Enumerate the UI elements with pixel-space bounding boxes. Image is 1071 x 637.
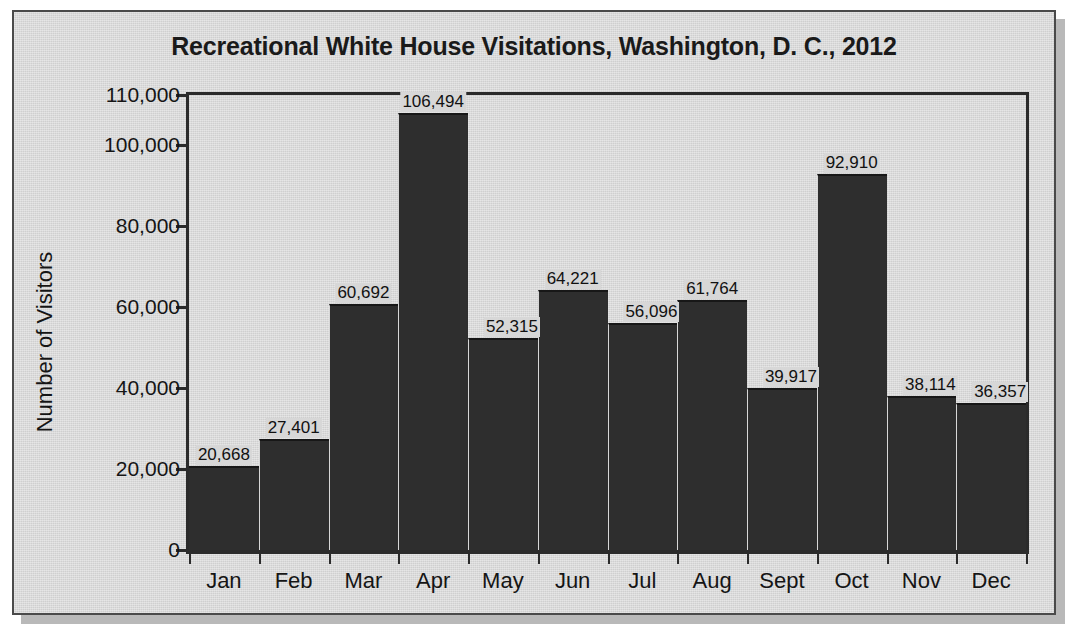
- bar-jul[interactable]: [608, 323, 678, 550]
- x-axis-tick: [817, 551, 819, 564]
- bar-jan[interactable]: [189, 466, 259, 550]
- bar-value-label-jul: 56,096: [623, 302, 679, 322]
- x-axis-label-oct: Oct: [835, 568, 869, 594]
- x-axis-label-aug: Aug: [693, 568, 732, 594]
- x-axis-label-jun: Jun: [555, 568, 590, 594]
- x-axis-label-feb: Feb: [275, 568, 313, 594]
- bar-value-label-jun: 64,221: [545, 269, 601, 289]
- bar-may[interactable]: [468, 338, 538, 550]
- bar-value-label-aug: 61,764: [684, 279, 740, 299]
- y-axis-tick-label: 0: [168, 538, 180, 562]
- bars-layer: [189, 95, 1026, 550]
- x-axis-tick: [329, 551, 331, 564]
- bar-value-label-jan: 20,668: [196, 445, 252, 465]
- bar-value-label-dec: 36,357: [972, 382, 1028, 402]
- x-axis-tick: [608, 551, 610, 564]
- x-axis-tick: [887, 551, 889, 564]
- y-axis-tick-label: 100,000: [104, 133, 180, 157]
- x-axis-label-jan: Jan: [206, 568, 241, 594]
- bar-value-label-may: 52,315: [484, 317, 540, 337]
- bar-oct[interactable]: [817, 174, 887, 550]
- bar-dec[interactable]: [956, 403, 1026, 550]
- y-axis-tick-label: 110,000: [106, 83, 180, 107]
- y-axis-tick-label: 80,000: [116, 214, 180, 238]
- x-axis-label-mar: Mar: [344, 568, 382, 594]
- x-axis-label-jul: Jul: [628, 568, 656, 594]
- x-axis-tick: [747, 551, 749, 564]
- bar-mar[interactable]: [329, 304, 399, 550]
- bar-value-label-nov: 38,114: [903, 375, 958, 395]
- y-axis-tick-label: 40,000: [116, 376, 180, 400]
- y-axis-title: Number of Visitors: [32, 217, 58, 467]
- bar-aug[interactable]: [677, 300, 747, 550]
- plot-area: 020,00040,00060,00080,000100,000110,000 …: [186, 92, 1029, 554]
- bar-value-label-mar: 60,692: [335, 283, 391, 303]
- chart-figure: Recreational White House Visitations, Wa…: [0, 0, 1071, 637]
- bar-jun[interactable]: [538, 290, 608, 550]
- x-axis-label-sept: Sept: [759, 568, 804, 594]
- x-axis-tick: [677, 551, 679, 564]
- figure-frame: Recreational White House Visitations, Wa…: [12, 10, 1056, 615]
- y-axis-tick-label: 60,000: [116, 295, 180, 319]
- x-axis-label-may: May: [482, 568, 524, 594]
- x-axis-label-dec: Dec: [972, 568, 1011, 594]
- x-axis-label-apr: Apr: [416, 568, 450, 594]
- bar-apr[interactable]: [398, 113, 468, 550]
- x-axis-tick: [189, 551, 191, 564]
- x-axis-tick: [956, 551, 958, 564]
- bar-feb[interactable]: [259, 439, 329, 550]
- bar-value-label-oct: 92,910: [824, 153, 880, 173]
- x-axis-tick: [398, 551, 400, 564]
- bar-value-label-sept: 39,917: [763, 367, 819, 387]
- x-axis-label-nov: Nov: [902, 568, 941, 594]
- bar-value-label-apr: 106,494: [400, 92, 465, 112]
- bar-value-label-feb: 27,401: [266, 418, 322, 438]
- chart-title: Recreational White House Visitations, Wa…: [14, 32, 1054, 61]
- bar-nov[interactable]: [887, 396, 957, 550]
- x-axis-tick: [259, 551, 261, 564]
- x-axis-tick: [538, 551, 540, 564]
- x-axis-tick: [468, 551, 470, 564]
- bar-sept[interactable]: [747, 388, 817, 550]
- y-axis-tick-label: 20,000: [116, 457, 180, 481]
- x-axis-tick: [1026, 551, 1028, 564]
